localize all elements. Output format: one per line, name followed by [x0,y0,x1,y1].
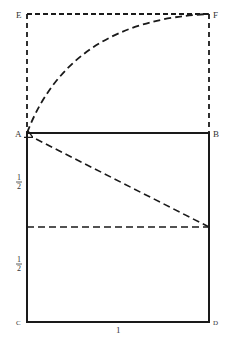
label-upper-half: 1 2 [16,173,22,191]
label-a: A [15,129,22,139]
golden-rectangle-diagram: E F A B C D 1 2 1 2 1 [0,0,234,339]
dashed-arc-af [27,14,209,133]
label-d: D [213,319,218,327]
svg-text:2: 2 [17,182,21,191]
label-c: C [16,319,21,327]
label-e: E [16,10,22,20]
svg-text:1: 1 [17,173,21,182]
label-lower-half: 1 2 [16,255,22,273]
label-f: F [213,10,218,20]
svg-text:2: 2 [17,264,21,273]
label-bottom-side: 1 [116,325,121,335]
svg-text:1: 1 [17,255,21,264]
dashed-diagonal-arrow [32,137,209,227]
label-b: B [213,129,219,139]
